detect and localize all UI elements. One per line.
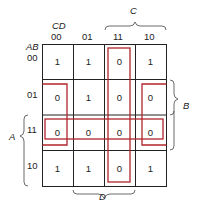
- brace-a: [20, 115, 28, 186]
- brace-b: [170, 80, 178, 150]
- brace-c: [105, 22, 166, 30]
- karnaugh-map: CD AB 00 01 11 10 00 01 11 10 C D A B 1 …: [0, 0, 200, 209]
- grid-lines: [43, 45, 167, 187]
- kmap-graphics: [0, 0, 200, 209]
- brace-d: [73, 190, 135, 198]
